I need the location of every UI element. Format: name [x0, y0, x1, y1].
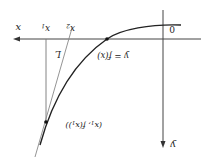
- y-axis-arrow-icon: [161, 141, 166, 148]
- point-root: [105, 37, 109, 41]
- tangent-line-L: [35, 28, 72, 157]
- point-x1-fx1: [44, 120, 48, 124]
- label-x1: x1: [41, 23, 50, 34]
- label-curve: y = f(x): [97, 51, 130, 61]
- label-x2: x2: [66, 23, 75, 34]
- label-tangent-L: L: [55, 49, 62, 59]
- label-origin: 0: [169, 24, 175, 34]
- x-axis-arrow-icon: [13, 37, 20, 42]
- label-point: (x1, f(x1)): [65, 120, 102, 130]
- label-y-axis: y: [170, 140, 177, 151]
- curve-f: [40, 25, 181, 145]
- newton-method-diagram: x y 0 x1 x2 L y = f(x) (x1, f(x1)): [0, 0, 201, 157]
- label-x-axis: x: [15, 23, 21, 34]
